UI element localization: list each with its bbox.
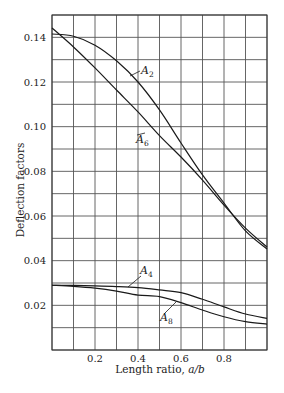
x-axis-title: Length ratio, a/b <box>115 363 205 375</box>
y-axis-ticks: 0.020.040.060.080.100.120.14 <box>24 32 46 311</box>
y-tick-label: 0.12 <box>24 77 46 88</box>
y-tick-label: 0.06 <box>24 211 46 222</box>
curve-label-a2: A2 <box>140 64 154 79</box>
x-tick-label: 0.8 <box>216 353 232 364</box>
y-axis-title: Deflection factors <box>14 143 26 238</box>
curve-labels: A2A6A4A8 <box>128 64 176 326</box>
y-tick-label: 0.08 <box>24 166 46 177</box>
x-axis-title-plain: Length ratio, <box>115 363 188 375</box>
curve-label-a6: A6 <box>135 133 149 148</box>
y-tick-label: 0.10 <box>24 121 46 132</box>
curve-label-a4: A4 <box>139 264 153 279</box>
x-axis-title-italic: a/b <box>188 363 205 375</box>
x-tick-label: 0.2 <box>87 353 103 364</box>
grid-lines <box>52 15 267 350</box>
y-tick-label: 0.02 <box>24 300 46 311</box>
curve-label-a8: A8 <box>159 311 173 326</box>
leader-line-a2 <box>130 71 140 76</box>
leader-line-a4 <box>128 276 141 287</box>
y-tick-label: 0.04 <box>24 255 46 266</box>
y-tick-label: 0.14 <box>24 32 46 43</box>
deflection-factors-chart: 0.020.040.060.080.100.120.14 0.20.40.60.… <box>0 0 284 393</box>
